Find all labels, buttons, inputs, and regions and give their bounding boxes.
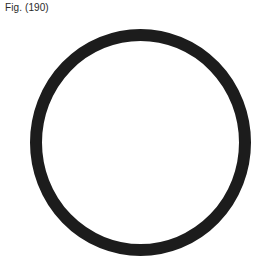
ring-diagram <box>0 0 267 272</box>
ring-shape <box>36 35 245 250</box>
